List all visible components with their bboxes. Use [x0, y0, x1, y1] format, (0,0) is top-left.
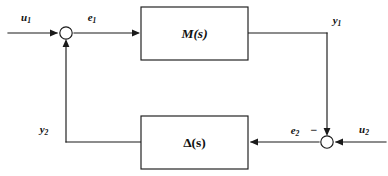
- block-diagram-canvas: M(s) Δ(s) u1 e1 y1 y2 e2: [0, 0, 388, 176]
- arrowhead-into-m-block: [132, 30, 140, 37]
- block-group: M(s) Δ(s): [141, 7, 248, 169]
- arrowhead-into-left-sum: [50, 30, 58, 37]
- signal-label-u2: u2: [359, 123, 369, 137]
- m-block-label: M(s): [180, 26, 207, 41]
- signal-label-u1: u1: [21, 11, 31, 25]
- arrowhead-into-left-sum-bottom: [63, 39, 70, 47]
- sign-group: −: [311, 123, 318, 137]
- signal-label-y2: y2: [38, 123, 49, 137]
- delta-block-label: Δ(s): [183, 135, 206, 150]
- arrowhead-into-right-sum-top: [324, 128, 331, 136]
- signal-label-e1: e1: [88, 11, 97, 25]
- signal-label-e2: e2: [291, 124, 300, 138]
- arrowhead-into-right-sum-side: [335, 139, 343, 146]
- signal-label-y1: y1: [331, 14, 342, 28]
- right-summing-junction[interactable]: [321, 136, 333, 148]
- left-summing-junction[interactable]: [60, 27, 72, 39]
- block-diagram-figure: M(s) Δ(s) u1 e1 y1 y2 e2: [0, 0, 388, 176]
- arrowhead-into-delta-block: [250, 139, 258, 146]
- minus-sign-right-sum: −: [311, 123, 318, 137]
